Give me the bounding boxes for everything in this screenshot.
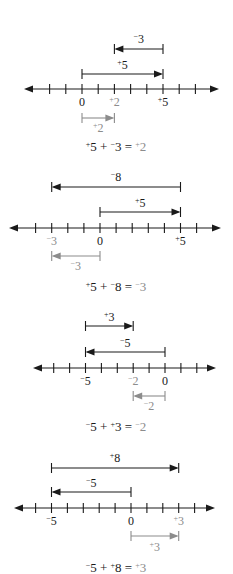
arrowhead-right-icon <box>206 505 215 512</box>
arrowhead-right-icon <box>172 209 181 216</box>
arrowhead-left-icon <box>33 365 42 372</box>
tick-label: +5 <box>175 234 186 248</box>
arrowhead-left-icon <box>14 505 23 512</box>
problem-3: −5−20+3−5−2−5 + +3 = −2 <box>33 310 216 434</box>
tick-label: +3 <box>173 514 184 528</box>
vector-label: +5 <box>117 58 128 72</box>
arrowhead-left-icon <box>9 225 18 232</box>
addend-vector: −3 <box>114 32 163 54</box>
vector-label: +3 <box>104 310 115 324</box>
arrowhead-left-icon <box>114 46 123 53</box>
arrowhead-left-icon <box>52 253 61 260</box>
tick-label: −2 <box>128 374 139 388</box>
addend-vector: +8 <box>52 451 179 473</box>
tick-label: 0 <box>162 374 168 388</box>
arrowhead-right-icon <box>210 86 219 93</box>
number-line <box>9 223 221 233</box>
addend-vector: +5 <box>82 58 163 79</box>
result-vector: −2 <box>133 391 165 413</box>
tick-label: +5 <box>158 95 169 109</box>
problem-1: 0+2+5−3+5+2+5 + −3 = +2 <box>24 32 219 154</box>
arrowhead-left-icon <box>86 349 95 356</box>
tick-label: −3 <box>46 234 57 248</box>
arrowhead-right-icon <box>105 115 114 122</box>
number-line <box>14 503 215 513</box>
number-line <box>24 84 219 94</box>
tick-label: 0 <box>97 234 103 248</box>
result-vector: −3 <box>52 251 100 273</box>
result-vector: +3 <box>131 531 179 554</box>
addend-vector: +5 <box>100 196 181 217</box>
arrowhead-right-icon <box>212 225 221 232</box>
arrowhead-right-icon <box>170 465 179 472</box>
arrowhead-right-icon <box>154 71 163 78</box>
tick-label: 0 <box>79 95 85 109</box>
arrowhead-left-icon <box>24 86 33 93</box>
equation: −5 + +8 = +3 <box>86 560 147 574</box>
addend-vector: −5 <box>52 476 132 497</box>
integer-addition-number-lines: 0+2+5−3+5+2+5 + −3 = +2−30+5−8+5−3+5 + −… <box>0 0 233 574</box>
vector-label: +5 <box>135 196 146 210</box>
vector-label: +3 <box>150 540 161 554</box>
arrowhead-right-icon <box>124 323 133 330</box>
vector-label: −8 <box>111 170 122 184</box>
vector-label: −5 <box>86 476 97 490</box>
arrowhead-left-icon <box>133 393 142 400</box>
number-line <box>33 363 216 373</box>
vector-label: −3 <box>71 259 82 273</box>
addend-vector: +3 <box>86 310 134 331</box>
addend-vector: −5 <box>86 336 166 357</box>
addend-vector: −8 <box>52 170 181 192</box>
vector-label: −5 <box>120 336 131 350</box>
tick-label: −5 <box>80 374 91 388</box>
tick-label: 0 <box>128 514 134 528</box>
equation: +5 + −3 = +2 <box>86 139 147 154</box>
arrowhead-right-icon <box>170 533 179 540</box>
vector-label: +8 <box>110 451 121 465</box>
vector-label: −3 <box>133 32 144 46</box>
problem-2: −30+5−8+5−3+5 + −8 = −3 <box>9 170 221 294</box>
vector-label: −2 <box>144 399 155 413</box>
tick-label: −5 <box>46 514 57 528</box>
result-vector: +2 <box>82 113 114 135</box>
problem-4: −50+3+8−5+3−5 + +8 = +3 <box>14 451 215 574</box>
arrowhead-left-icon <box>52 184 61 191</box>
arrowhead-left-icon <box>52 489 61 496</box>
equation: +5 + −8 = −3 <box>86 279 147 294</box>
tick-label: +2 <box>109 95 120 109</box>
equation: −5 + +3 = −2 <box>86 419 147 434</box>
arrowhead-right-icon <box>207 365 216 372</box>
vector-label: +2 <box>93 121 104 135</box>
